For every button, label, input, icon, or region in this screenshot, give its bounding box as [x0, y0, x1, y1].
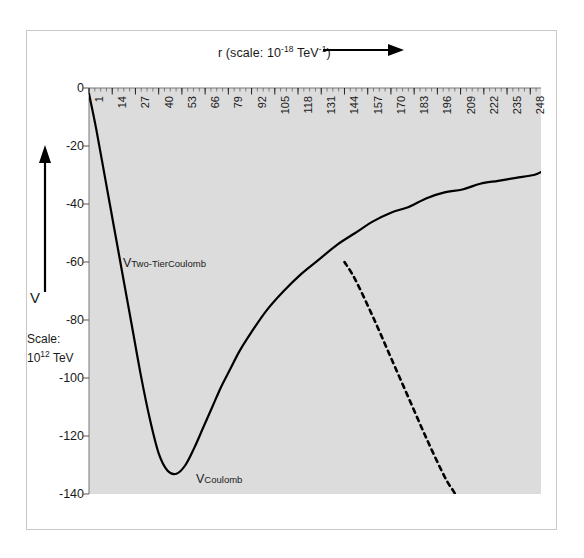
x-tick-label: 209 [465, 96, 477, 114]
plot-area [89, 88, 541, 494]
x-axis-title-exponent: -18 [281, 44, 294, 54]
x-tick-label: 118 [302, 96, 314, 114]
x-tick-label: 131 [325, 96, 337, 114]
y-tick-label: -40 [20, 197, 84, 211]
x-tick-label: 170 [395, 96, 407, 114]
x-axis-title-exponent-2: -1 [319, 44, 327, 54]
y-axis-scale-unit: TeV [50, 351, 74, 365]
y-axis-scale-note: Scale: 1012 TeV [27, 332, 74, 366]
y-tick-label: -60 [20, 255, 84, 269]
series-label-coulomb-subscript: Coulomb [204, 474, 242, 485]
x-tick-label: 79 [232, 96, 244, 108]
x-tick-label: 235 [511, 96, 523, 114]
x-axis-title-prefix: r (scale: 10 [218, 46, 281, 60]
y-tick-label-group: 0-20-40-60-80-100-120-140 [18, 0, 84, 558]
x-tick-label: 248 [534, 96, 546, 114]
y-tick-label: -120 [20, 429, 84, 443]
y-axis-label: V [30, 289, 40, 306]
x-tick-label: 53 [186, 96, 198, 108]
y-axis-scale-exponent: 12 [40, 349, 49, 359]
y-axis-scale-base: 10 [27, 351, 40, 365]
x-tick-label: 183 [418, 96, 430, 114]
y-tick-label: -140 [20, 487, 84, 501]
x-tick-label: 92 [256, 96, 268, 108]
y-tick-label: -80 [20, 313, 84, 327]
x-axis-title-suffix: ) [327, 46, 331, 60]
x-axis-title-mid: TeV [294, 46, 319, 60]
series-label-two-tier-subscript: Two-TierCoulomb [131, 258, 206, 269]
x-tick-label: 27 [139, 96, 151, 108]
x-tick-label: 66 [209, 96, 221, 108]
x-tick-label: 105 [279, 96, 291, 114]
x-tick-label: 14 [116, 96, 128, 108]
x-tick-label: 144 [348, 96, 360, 114]
y-tick-label: -20 [20, 139, 84, 153]
y-tick-label: -100 [20, 371, 84, 385]
x-tick-label: 196 [441, 96, 453, 114]
series-label-coulomb: VCoulomb [196, 472, 242, 486]
x-axis-title: r (scale: 10-18 TeV-1) [218, 44, 331, 60]
y-tick-label: 0 [20, 81, 84, 95]
series-label-two-tier-coulomb: VTwo-TierCoulomb [123, 256, 206, 270]
y-axis-scale-line1: Scale: [27, 332, 74, 347]
x-tick-label: 1 [93, 96, 105, 102]
x-tick-label: 222 [488, 96, 500, 114]
x-tick-label: 40 [163, 96, 175, 108]
y-axis-scale-line2: 1012 TeV [27, 347, 74, 366]
figure-container: r (scale: 10-18 TeV-1) 0-20-40-60-80-100… [0, 0, 584, 558]
x-tick-label: 157 [372, 96, 384, 114]
